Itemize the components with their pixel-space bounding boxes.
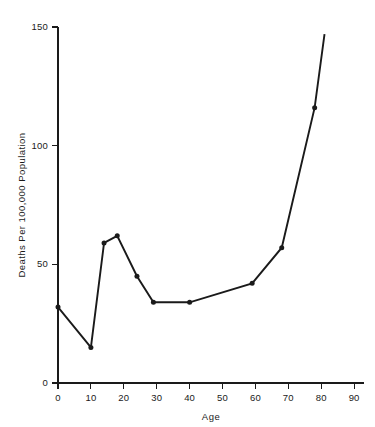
chart-axes: [52, 27, 364, 389]
series-data-point: [151, 300, 156, 305]
y-axis-title: Deaths Per 100,000 Population: [17, 132, 27, 277]
x-axis-tick-label: 0: [55, 393, 60, 403]
x-axis-tick-label: 30: [151, 393, 162, 403]
x-axis-tick-label: 40: [184, 393, 195, 403]
series-data-point: [187, 300, 192, 305]
x-axis-tick-label: 60: [250, 393, 261, 403]
series-data-point: [250, 281, 255, 286]
series-data-point: [312, 105, 317, 110]
x-axis-tick-label: 70: [283, 393, 294, 403]
x-axis-tick-label: 90: [349, 393, 360, 403]
series-data-point: [115, 233, 120, 238]
series-data-point: [102, 240, 107, 245]
x-axis-tick-label: 10: [85, 393, 96, 403]
chart-series-group: [56, 34, 325, 350]
series-data-point: [88, 345, 93, 350]
series-line-deaths: [58, 34, 325, 347]
x-axis-tick-marks: [58, 383, 354, 389]
x-axis-tick-label: 20: [118, 393, 129, 403]
y-axis-tick-label: 150: [8, 22, 48, 32]
y-axis-tick-marks: [52, 27, 58, 383]
series-data-point: [279, 245, 284, 250]
series-data-point: [134, 274, 139, 279]
y-axis-tick-label: 0: [8, 378, 48, 388]
x-axis-title: Age: [202, 412, 220, 422]
x-axis-tick-label: 50: [217, 393, 228, 403]
x-axis-tick-label: 80: [316, 393, 327, 403]
series-data-point: [56, 305, 61, 310]
chart-figure: 050100150 0102030405060708090 Deaths Per…: [0, 0, 375, 427]
y-axis-tick-label: 100: [8, 141, 48, 151]
chart-plot-area: [0, 0, 375, 427]
y-axis-tick-label: 50: [8, 260, 48, 270]
